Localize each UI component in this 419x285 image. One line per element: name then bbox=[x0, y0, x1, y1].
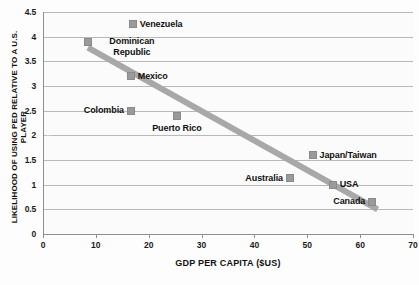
x-tick-mark bbox=[360, 234, 361, 238]
x-tick-mark bbox=[149, 234, 150, 238]
data-point-label: Japan/Taiwan bbox=[320, 150, 377, 161]
x-tick-mark bbox=[43, 234, 44, 238]
y-axis-title-container: LIKELIHOOD OF USING PED RELATIVE TO A U.… bbox=[0, 0, 18, 285]
gridline-y bbox=[43, 135, 413, 136]
gridline-y bbox=[43, 209, 413, 210]
y-tick-label: 0.5 bbox=[2, 204, 36, 214]
y-axis-title: LIKELIHOOD OF USING PED RELATIVE TO A U.… bbox=[10, 22, 28, 232]
data-point-label: Mexico bbox=[138, 71, 168, 82]
data-point-marker[interactable] bbox=[286, 174, 294, 182]
y-tick-label: 3.5 bbox=[2, 56, 36, 66]
x-tick-label: 0 bbox=[28, 240, 58, 250]
gridline-y bbox=[43, 12, 413, 13]
data-point-label: Puerto Rico bbox=[152, 123, 201, 134]
x-tick-label: 10 bbox=[81, 240, 111, 250]
x-tick-label: 20 bbox=[134, 240, 164, 250]
x-tick-label: 70 bbox=[398, 240, 419, 250]
x-axis-line bbox=[43, 234, 414, 235]
gridline-y bbox=[43, 86, 413, 87]
y-tick-label: 4.5 bbox=[2, 7, 36, 17]
y-tick-label: 1.5 bbox=[2, 155, 36, 165]
data-point-label: Colombia bbox=[84, 105, 124, 116]
data-point-label: USA bbox=[340, 179, 359, 190]
x-tick-label: 60 bbox=[345, 240, 375, 250]
x-tick-mark bbox=[96, 234, 97, 238]
x-tick-mark bbox=[307, 234, 308, 238]
y-tick-label: 1 bbox=[2, 180, 36, 190]
x-axis-title: GDP PER CAPITA ($US) bbox=[43, 258, 413, 268]
data-point-marker[interactable] bbox=[329, 181, 337, 189]
x-tick-mark bbox=[413, 234, 414, 238]
data-point-marker[interactable] bbox=[127, 107, 135, 115]
y-tick-label: 2 bbox=[2, 130, 36, 140]
x-tick-mark bbox=[202, 234, 203, 238]
y-tick-label: 0 bbox=[2, 229, 36, 239]
y-axis-line bbox=[43, 12, 44, 235]
scatter-chart: LIKELIHOOD OF USING PED RELATIVE TO A U.… bbox=[0, 0, 419, 285]
data-point-label: Dominican Republic bbox=[95, 36, 169, 58]
minor-tick bbox=[46, 135, 51, 136]
x-tick-label: 30 bbox=[187, 240, 217, 250]
data-point-label: Canada bbox=[333, 196, 365, 207]
data-point-marker[interactable] bbox=[309, 151, 317, 159]
data-point-marker[interactable] bbox=[173, 112, 181, 120]
x-tick-label: 40 bbox=[239, 240, 269, 250]
data-point-marker[interactable] bbox=[368, 198, 376, 206]
y-tick-label: 3 bbox=[2, 81, 36, 91]
y-tick-label: 2.5 bbox=[2, 106, 36, 116]
y-tick-label: 4 bbox=[2, 32, 36, 42]
data-point-marker[interactable] bbox=[84, 38, 92, 46]
x-tick-mark bbox=[254, 234, 255, 238]
data-point-marker[interactable] bbox=[129, 20, 137, 28]
x-tick-label: 50 bbox=[292, 240, 322, 250]
gridline-y bbox=[43, 61, 413, 62]
data-point-marker[interactable] bbox=[127, 72, 135, 80]
data-point-label: Australia bbox=[245, 173, 283, 184]
data-point-label: Venezuela bbox=[140, 19, 183, 30]
